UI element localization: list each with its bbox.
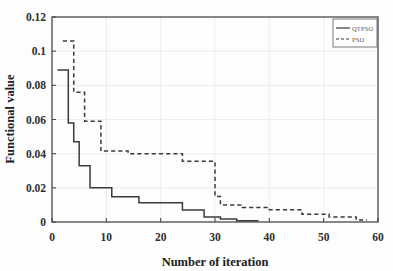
x-tick-label: 30 bbox=[209, 231, 221, 243]
line-chart: 0102030405060 00.020.040.060.080.10.12 N… bbox=[0, 0, 393, 271]
y-tick-label: 0.1 bbox=[32, 45, 47, 57]
legend-label-qtpso: QTPSO bbox=[352, 25, 373, 32]
legend-label-pso: PSO bbox=[352, 36, 365, 43]
y-tick-label: 0.12 bbox=[26, 11, 46, 23]
y-tick-label: 0.02 bbox=[26, 182, 46, 194]
x-tick-label: 20 bbox=[155, 231, 167, 243]
legend-box bbox=[333, 19, 377, 47]
chart-figure: 0102030405060 00.020.040.060.080.10.12 N… bbox=[0, 0, 393, 271]
y-tick-label: 0.04 bbox=[26, 148, 46, 160]
x-axis-title: Number of iteration bbox=[162, 255, 269, 269]
x-tick-label: 10 bbox=[101, 231, 113, 243]
x-tick-label: 40 bbox=[264, 231, 276, 243]
y-tick-label: 0.06 bbox=[26, 114, 46, 126]
x-tick-label: 60 bbox=[372, 231, 384, 243]
y-tick-label: 0.08 bbox=[26, 79, 46, 91]
x-tick-label: 50 bbox=[318, 231, 330, 243]
x-tick-label: 0 bbox=[49, 231, 55, 243]
y-axis-title: Functional value bbox=[3, 74, 17, 164]
chart-legend: QTPSO PSO bbox=[333, 19, 377, 47]
y-tick-label: 0 bbox=[40, 216, 46, 228]
